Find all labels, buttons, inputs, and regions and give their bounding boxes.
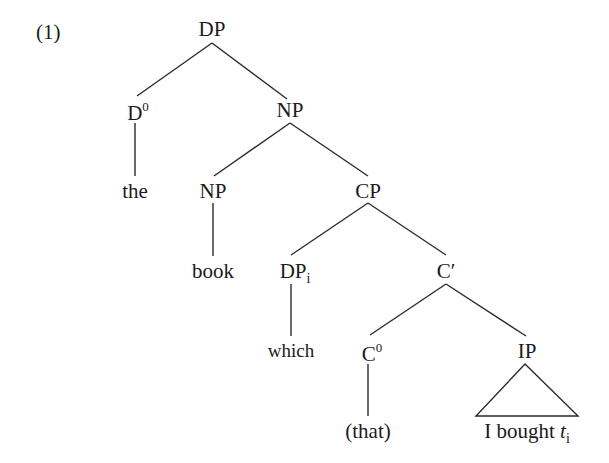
edge-dp-d0 (137, 43, 212, 96)
node-ip: IP (518, 341, 537, 362)
edge-dp-np (212, 43, 287, 99)
edge-cbar-c0 (370, 284, 446, 335)
node-dp-i: DPi (280, 261, 311, 286)
node-which: which (268, 341, 314, 360)
edge-np-cp (290, 123, 368, 176)
edge-np-np (214, 123, 290, 176)
node-np-inner: NP (200, 181, 227, 202)
node-the: the (122, 181, 148, 202)
ip-triangle (476, 364, 578, 416)
node-d0: D0 (127, 100, 149, 124)
node-dp-root: DP (199, 19, 226, 40)
node-ip-content: I bought ti (484, 421, 570, 446)
node-that: (that) (345, 421, 390, 442)
node-c-bar: C′ (437, 261, 456, 282)
edge-cp-dpi (291, 203, 368, 255)
node-book: book (192, 261, 234, 282)
edge-cp-cbar (368, 203, 446, 255)
edge-cbar-ip (446, 284, 526, 336)
node-c0: C0 (362, 341, 383, 365)
syntax-tree-diagram: (1) DP D0 NP the N (0, 0, 609, 463)
node-cp: CP (355, 181, 381, 202)
tree-edges (0, 0, 609, 463)
node-np-top: NP (277, 100, 304, 121)
